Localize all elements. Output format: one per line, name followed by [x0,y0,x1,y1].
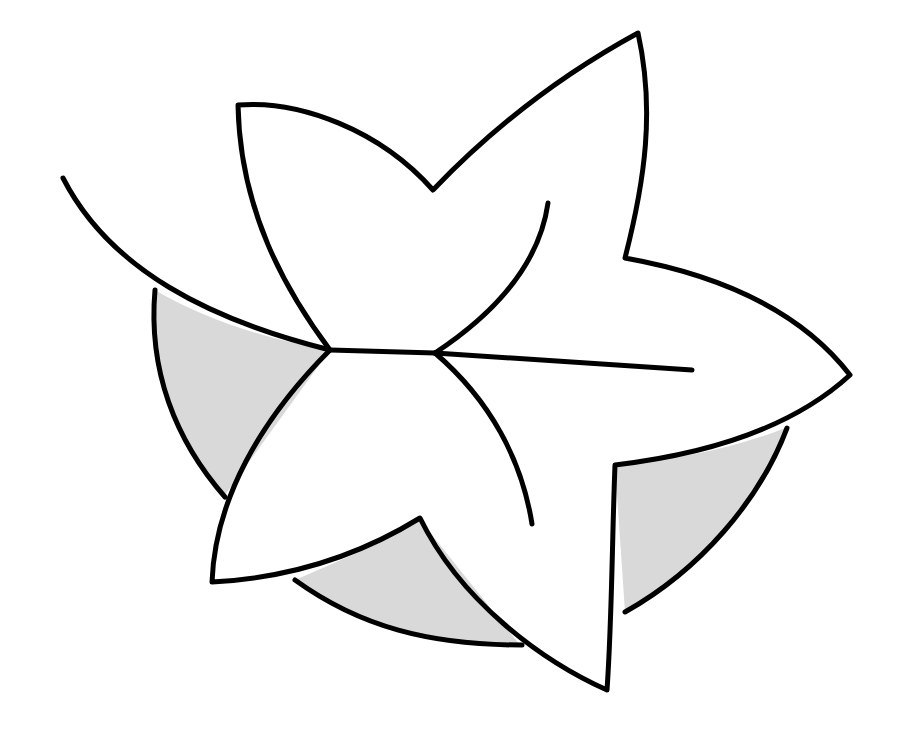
vein-horizontal [330,350,692,370]
vein-upper [435,203,548,353]
vein-lower [435,353,532,524]
leaf-star-drawing [0,0,911,751]
